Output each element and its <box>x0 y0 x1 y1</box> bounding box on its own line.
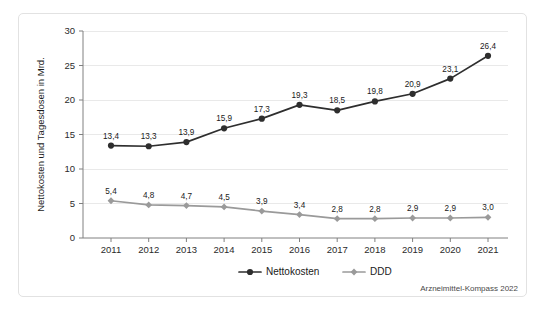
y-tick-label: 15 <box>64 129 75 140</box>
data-point-label: 3,9 <box>256 197 268 206</box>
data-point-label: 20,9 <box>405 80 421 89</box>
legend-label-ddd[interactable]: DDD <box>370 266 392 277</box>
data-point-marker[interactable] <box>334 107 340 113</box>
data-point-marker[interactable] <box>334 215 341 222</box>
data-point-label: 2,8 <box>369 205 381 214</box>
data-point-label: 26,4 <box>480 42 496 51</box>
data-point-marker[interactable] <box>372 215 379 222</box>
data-point-marker[interactable] <box>447 215 454 222</box>
data-point-marker[interactable] <box>485 53 491 59</box>
data-point-marker[interactable] <box>145 201 152 208</box>
x-tick-label: 2012 <box>138 244 159 255</box>
data-point-marker[interactable] <box>485 214 492 221</box>
data-point-marker[interactable] <box>372 98 378 104</box>
data-point-marker[interactable] <box>108 142 114 148</box>
x-tick-label: 2020 <box>440 244 461 255</box>
x-tick-label: 2014 <box>214 244 235 255</box>
y-tick-label: 30 <box>64 25 75 36</box>
data-point-label: 4,8 <box>143 191 155 200</box>
data-point-label: 17,3 <box>254 105 270 114</box>
y-tick-label: 5 <box>70 198 75 209</box>
data-point-label: 19,3 <box>292 91 308 100</box>
x-tick-label: 2016 <box>289 244 310 255</box>
data-point-label: 18,5 <box>329 96 345 105</box>
series-line-nettokosten <box>111 56 488 146</box>
data-point-marker[interactable] <box>221 204 228 211</box>
x-tick-label: 2017 <box>327 244 348 255</box>
x-tick-label: 2019 <box>402 244 423 255</box>
chart-figure-frame: 0510152025302011201220132014201520162017… <box>18 13 527 297</box>
x-tick-label: 2018 <box>364 244 385 255</box>
line-chart: 0510152025302011201220132014201520162017… <box>19 14 526 296</box>
data-point-marker[interactable] <box>447 76 453 82</box>
x-tick-label: 2013 <box>176 244 197 255</box>
data-point-label: 13,9 <box>178 128 194 137</box>
y-tick-label: 25 <box>64 60 75 71</box>
data-point-marker[interactable] <box>409 215 416 222</box>
y-axis-title: Nettokosten und Tagesdosen in Mrd. <box>35 57 46 212</box>
source-note: Arzneimittel-Kompass 2022 <box>420 284 518 293</box>
data-point-marker[interactable] <box>146 143 152 149</box>
y-tick-label: 10 <box>64 163 75 174</box>
data-point-label: 4,7 <box>181 192 193 201</box>
data-point-marker[interactable] <box>410 91 416 97</box>
x-tick-label: 2021 <box>477 244 498 255</box>
y-tick-label: 20 <box>64 94 75 105</box>
legend-marker-ddd <box>351 269 358 276</box>
data-point-label: 3,4 <box>294 201 306 210</box>
data-point-label: 13,3 <box>141 132 157 141</box>
legend-marker-nettokosten <box>247 269 253 275</box>
data-point-label: 2,8 <box>332 205 344 214</box>
data-point-marker[interactable] <box>183 139 189 145</box>
data-point-label: 15,9 <box>216 114 232 123</box>
data-point-label: 5,4 <box>105 187 117 196</box>
data-point-marker[interactable] <box>296 211 303 218</box>
data-point-label: 3,0 <box>482 203 494 212</box>
legend-label-nettokosten[interactable]: Nettokosten <box>266 266 319 277</box>
data-point-marker[interactable] <box>296 102 302 108</box>
y-tick-label: 0 <box>70 232 75 243</box>
x-tick-label: 2011 <box>101 244 121 255</box>
data-point-label: 23,1 <box>442 65 458 74</box>
data-point-label: 2,9 <box>445 204 457 213</box>
x-tick-label: 2015 <box>251 244 272 255</box>
data-point-label: 2,9 <box>407 204 419 213</box>
data-point-label: 4,5 <box>218 193 230 202</box>
data-point-marker[interactable] <box>259 116 265 122</box>
data-point-label: 19,8 <box>367 87 383 96</box>
data-point-label: 13,4 <box>103 132 119 141</box>
data-point-marker[interactable] <box>258 208 265 215</box>
data-point-marker[interactable] <box>221 125 227 131</box>
